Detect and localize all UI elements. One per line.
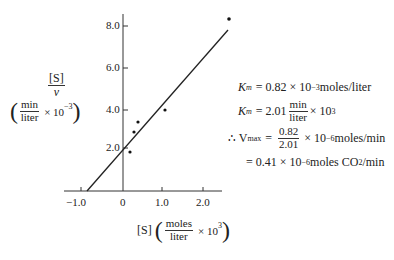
- x-axis-label: [S] (molesliter × 103): [137, 217, 230, 244]
- y-axis-unit: (minliter × 10−3): [10, 98, 81, 125]
- vmax-equation-1: ∴ Vmax = 0.822.01 × 10−6 moles/min: [228, 126, 385, 150]
- x-tick-label: 1.0: [155, 196, 169, 208]
- x-tick-label: 2.0: [196, 196, 210, 208]
- y-tick-label: 6.0: [106, 61, 120, 73]
- y-tick-label: 8.0: [106, 19, 120, 31]
- y-axis-label: [S]v: [46, 72, 67, 98]
- km-equation-2: Km = 2.01 minliter × 103: [238, 99, 335, 123]
- x-tick-label: −1.0: [66, 196, 86, 208]
- km-equation-1: Km = 0.82 × 10−3 moles/liter: [238, 80, 371, 95]
- vmax-equation-2: = 0.41 × 10−6 moles CO2/min: [246, 155, 384, 170]
- x-tick-label: 0: [120, 196, 126, 208]
- y-tick-label: 2.0: [106, 141, 120, 153]
- y-tick-label: 4.0: [106, 103, 120, 115]
